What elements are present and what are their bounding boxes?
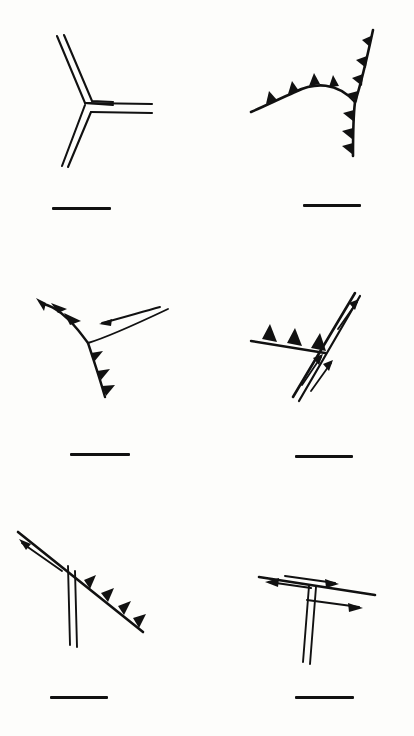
thrust-teeth-southeast (84, 575, 146, 628)
scale-bar-panel-c (70, 453, 130, 456)
scale-bar-panel-a (52, 207, 111, 210)
transform-arm-east (88, 309, 168, 343)
panel-c-trench-trench-transform (0, 245, 207, 490)
thrust-teeth-south (342, 110, 354, 154)
ridge-arm-lower-left (62, 105, 91, 167)
transform-arrowhead-east (99, 319, 112, 326)
panel-b-trench-trench-trench (207, 0, 414, 245)
scale-bar-panel-d (295, 455, 353, 458)
figure-root: ridge-ridge-ridge trench-trench-trench t… (0, 0, 414, 736)
panel-e-transform-trench-ridge (0, 490, 207, 735)
boundary-line-main (18, 532, 143, 632)
ridge-arm-upper-left (57, 35, 113, 105)
ridge-arm-south (303, 586, 316, 664)
arrowhead-lower-b (323, 360, 333, 371)
scale-bar-panel-b (303, 204, 361, 207)
thrust-teeth-northwest (36, 298, 81, 325)
trench-arm-west (251, 85, 355, 112)
panel-d-trench-transform-transform (207, 245, 414, 490)
trench-arm-northwest (44, 304, 88, 343)
arrowhead-east-upper (325, 579, 339, 588)
trench-arm-south (353, 102, 355, 156)
arrowhead-east-lower (348, 603, 363, 612)
scale-bar-panel-f (295, 696, 354, 699)
panel-f-transform-transform-ridge (207, 490, 414, 735)
scale-bar-panel-e (50, 696, 108, 699)
panel-a-ridge-ridge-ridge (0, 0, 207, 245)
ridge-arm-south (68, 566, 77, 647)
